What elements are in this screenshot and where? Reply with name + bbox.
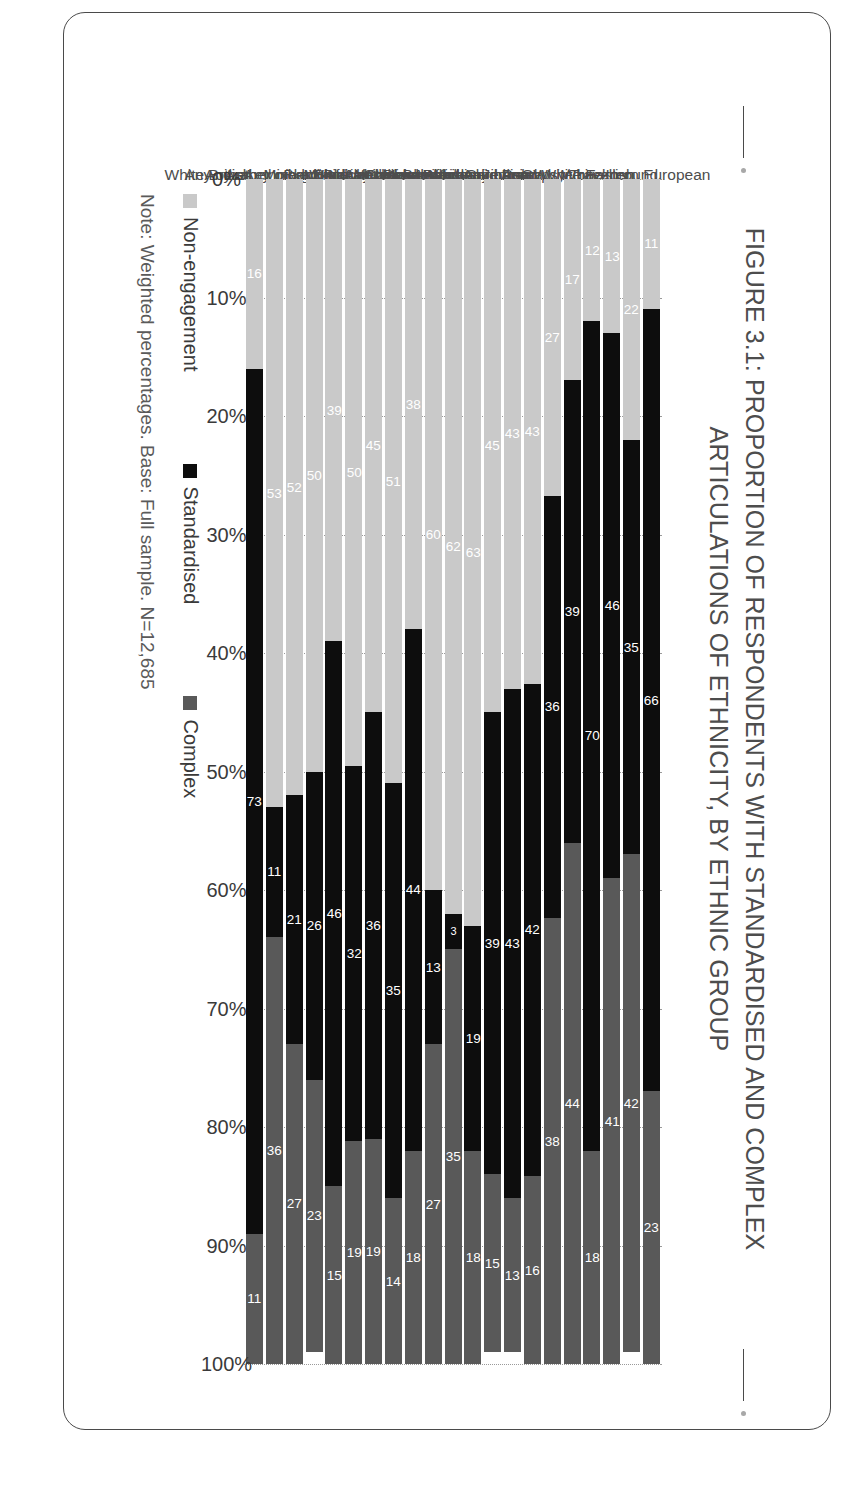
- bar-segment-standardised[interactable]: 13: [424, 890, 441, 1044]
- bar-segment-non-engagement[interactable]: 17: [563, 179, 580, 380]
- bar-segment-complex[interactable]: 23: [643, 1091, 660, 1364]
- bar-segment-non-engagement[interactable]: 63: [464, 179, 481, 926]
- legend-item[interactable]: Complex: [179, 696, 202, 798]
- bar-segment-standardised[interactable]: 26: [305, 772, 322, 1080]
- bar-segment-standardised[interactable]: 70: [583, 321, 600, 1151]
- axis-tick-label: 90%: [206, 1234, 246, 1257]
- bar-segment-complex[interactable]: 18: [583, 1151, 600, 1364]
- bar-row[interactable]: 502623: [305, 179, 322, 1364]
- bar-segment-complex[interactable]: 23: [305, 1080, 322, 1353]
- bar-segment-standardised[interactable]: 3: [444, 914, 461, 950]
- bar-segment-value: 36: [266, 1144, 281, 1158]
- figure: FIGURE 3.1: PROPORTION OF RESPONDENTS WI…: [72, 84, 772, 1414]
- bar-row[interactable]: 453915: [484, 179, 501, 1364]
- bar-segment-complex[interactable]: 18: [404, 1151, 421, 1364]
- bar-segment-standardised[interactable]: 43: [504, 689, 521, 1199]
- bar-segment-standardised[interactable]: 36: [543, 496, 560, 918]
- bar-row[interactable]: 223542: [623, 179, 640, 1364]
- bar-segment-complex[interactable]: 41: [603, 878, 620, 1364]
- bar-row[interactable]: 384418: [404, 179, 421, 1364]
- bar-segment-standardised[interactable]: 19: [464, 926, 481, 1151]
- bar-segment-standardised[interactable]: 39: [484, 712, 501, 1174]
- bar-row[interactable]: 522127: [285, 179, 302, 1364]
- bar-segment-complex[interactable]: 15: [484, 1174, 501, 1352]
- bar-row[interactable]: 116623: [643, 179, 660, 1364]
- legend-item[interactable]: Non-engagement: [179, 194, 202, 372]
- bar-segment-non-engagement[interactable]: 16: [246, 179, 263, 369]
- bar-segment-complex[interactable]: 11: [246, 1234, 263, 1364]
- bar-segment-non-engagement[interactable]: 12: [583, 179, 600, 321]
- bar-segment-non-engagement[interactable]: 50: [305, 179, 322, 772]
- bar-row[interactable]: 513514: [385, 179, 402, 1364]
- bar-row[interactable]: 62335: [444, 179, 461, 1364]
- legend-label: Non-engagement: [179, 217, 202, 372]
- bar-segment-standardised[interactable]: 32: [345, 766, 362, 1141]
- bar-segment-standardised[interactable]: 36: [365, 712, 382, 1139]
- bar-segment-standardised[interactable]: 66: [643, 309, 660, 1091]
- bar-row[interactable]: 434216: [523, 179, 540, 1364]
- gridline: [244, 1364, 662, 1365]
- bar-row[interactable]: 531136: [265, 179, 282, 1364]
- bar-segment-complex[interactable]: 42: [623, 854, 640, 1352]
- bar-segment-value: 45: [485, 439, 500, 453]
- bar-row[interactable]: 394615: [325, 179, 342, 1364]
- bar-segment-non-engagement[interactable]: 13: [603, 179, 620, 333]
- bar-segment-non-engagement[interactable]: 22: [623, 179, 640, 440]
- bar-segment-standardised[interactable]: 35: [623, 440, 640, 855]
- bar-segment-standardised[interactable]: 46: [325, 641, 342, 1186]
- figure-title: FIGURE 3.1: PROPORTION OF RESPONDENTS WI…: [701, 179, 772, 1299]
- bar-segment-complex[interactable]: 14: [385, 1198, 402, 1364]
- bar-segment-complex[interactable]: 13: [504, 1198, 521, 1352]
- bar-segment-non-engagement[interactable]: 51: [385, 179, 402, 783]
- bar-segment-non-engagement[interactable]: 50: [345, 179, 362, 766]
- bar-row[interactable]: 273638: [543, 179, 560, 1364]
- bar-segment-non-engagement[interactable]: 38: [404, 179, 421, 629]
- bar-segment-value: 11: [267, 865, 281, 879]
- bar-segment-complex[interactable]: 27: [285, 1044, 302, 1364]
- bar-row[interactable]: 503219: [345, 179, 362, 1364]
- bar-segment-complex[interactable]: 19: [345, 1141, 362, 1364]
- bar-segment-complex[interactable]: 35: [444, 949, 461, 1364]
- decoration-rule-bottom: [741, 1349, 746, 1416]
- bar-row[interactable]: 173944: [563, 179, 580, 1364]
- bar-series-container: 1166232235421346411270181739442736384342…: [244, 179, 662, 1364]
- bar-segment-complex[interactable]: 38: [543, 918, 560, 1364]
- bar-segment-non-engagement[interactable]: 62: [444, 179, 461, 914]
- bar-segment-non-engagement[interactable]: 60: [424, 179, 441, 890]
- bar-segment-standardised[interactable]: 44: [404, 629, 421, 1150]
- bar-segment-value: 13: [604, 249, 619, 263]
- bar-segment-non-engagement[interactable]: 45: [365, 179, 382, 712]
- bar-segment-standardised[interactable]: 35: [385, 783, 402, 1198]
- bar-segment-non-engagement[interactable]: 11: [643, 179, 660, 309]
- bar-row[interactable]: 453619: [365, 179, 382, 1364]
- bar-segment-complex[interactable]: 19: [365, 1139, 382, 1364]
- decor-dot-icon: [741, 1411, 746, 1416]
- bar-segment-non-engagement[interactable]: 27: [543, 179, 560, 496]
- bar-segment-non-engagement[interactable]: 45: [484, 179, 501, 712]
- bar-segment-non-engagement[interactable]: 39: [325, 179, 342, 641]
- legend-item[interactable]: Standardised: [179, 464, 202, 605]
- bar-row[interactable]: 127018: [583, 179, 600, 1364]
- bar-row[interactable]: 601327: [424, 179, 441, 1364]
- bar-segment-non-engagement[interactable]: 53: [265, 179, 282, 807]
- bar-row[interactable]: 434313: [504, 179, 521, 1364]
- bar-segment-standardised[interactable]: 21: [285, 795, 302, 1044]
- bar-segment-standardised[interactable]: 42: [523, 684, 540, 1177]
- bar-segment-value: 15: [326, 1268, 341, 1282]
- bar-segment-non-engagement[interactable]: 43: [523, 179, 540, 684]
- bar-segment-complex[interactable]: 18: [464, 1151, 481, 1364]
- bar-segment-standardised[interactable]: 11: [265, 807, 282, 937]
- bar-segment-standardised[interactable]: 46: [603, 333, 620, 878]
- bar-segment-non-engagement[interactable]: 52: [285, 179, 302, 795]
- bar-segment-non-engagement[interactable]: 43: [504, 179, 521, 689]
- bar-segment-standardised[interactable]: 39: [563, 380, 580, 842]
- bar-segment-complex[interactable]: 16: [523, 1176, 540, 1364]
- bar-segment-complex[interactable]: 44: [563, 843, 580, 1364]
- bar-row[interactable]: 631918: [464, 179, 481, 1364]
- bar-row[interactable]: 134641: [603, 179, 620, 1364]
- bar-segment-complex[interactable]: 36: [265, 937, 282, 1364]
- bar-segment-complex[interactable]: 15: [325, 1186, 342, 1364]
- bar-segment-standardised[interactable]: 73: [246, 369, 263, 1234]
- bar-row[interactable]: 167311: [246, 179, 263, 1364]
- bar-segment-complex[interactable]: 27: [424, 1044, 441, 1364]
